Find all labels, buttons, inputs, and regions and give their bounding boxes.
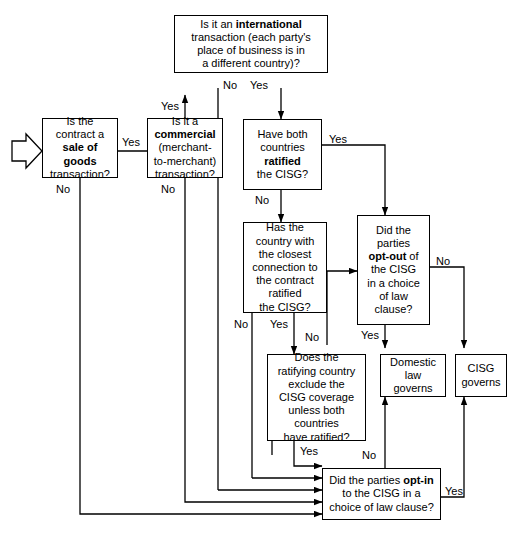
node-opt-out[interactable]: Did thepartiesopt-out ofthe CISGin a cho… (357, 215, 430, 325)
edge-label-closest-yes: Yes (270, 318, 288, 330)
node-both-ratified-label: Have bothcountriesratifiedthe CISG? (257, 128, 308, 181)
node-closest-connection[interactable]: Has thecountry withthe closestconnection… (243, 222, 327, 313)
node-international-label: Is it an internationaltransaction (each … (191, 18, 311, 71)
edge-label-opt-in-no: No (362, 449, 376, 461)
edge-closest-no-right (327, 271, 357, 345)
node-opt-in-label: Did the parties opt-into the CISG in ach… (329, 474, 434, 514)
edge-label-opt-out-no: No (436, 255, 450, 267)
edge-label-both-ratified-no: No (255, 194, 269, 206)
edge-label-international-yes: Yes (250, 79, 268, 91)
node-opt-out-label: Did thepartiesopt-out ofthe CISGin a cho… (367, 224, 420, 316)
edge-label-commercial-no: No (161, 183, 175, 195)
node-commercial-label: Is it acommercial(merchant-to-merchant)t… (154, 115, 216, 181)
edge-label-closest-no: No (234, 318, 248, 330)
node-cisg-governs-label: CISGgoverns (461, 362, 500, 388)
edge-opt-out-no (430, 267, 464, 348)
edge-label-both-ratified-yes: Yes (329, 133, 347, 145)
node-sale-of-goods-label: Is thecontract asale ofgoodstransaction? (50, 115, 110, 181)
edge-label-opt-out-yes: Yes (361, 329, 379, 341)
node-closest-connection-label: Has thecountry withthe closestconnection… (252, 221, 317, 313)
flowchart-canvas: Is thecontract asale ofgoodstransaction?… (0, 0, 514, 544)
node-exclude-coverage[interactable]: Does theratifying countryexclude theCISG… (267, 354, 366, 441)
edge-label-commercial-yes: Yes (161, 100, 179, 112)
node-domestic-law[interactable]: Domesticlawgoverns (380, 354, 446, 397)
node-domestic-law-label: Domesticlawgoverns (390, 356, 436, 396)
node-opt-in[interactable]: Did the parties opt-into the CISG in ach… (322, 468, 441, 520)
start-entry-arrow (12, 134, 42, 168)
edge-label-exclude-yes: Yes (300, 445, 318, 457)
edge-label-sale-yes: Yes (122, 136, 140, 148)
edge-label-international-no: No (223, 79, 237, 91)
node-both-ratified[interactable]: Have bothcountriesratifiedthe CISG? (243, 119, 322, 190)
edge-opt-in-yes (441, 397, 464, 497)
edge-label-opt-in-yes: Yes (445, 485, 463, 497)
edge-label-sale-no: No (56, 183, 70, 195)
node-cisg-governs[interactable]: CISGgoverns (455, 354, 507, 397)
edge-label-closest-no-right: No (305, 331, 319, 343)
node-sale-of-goods[interactable]: Is thecontract asale ofgoodstransaction? (42, 118, 118, 178)
node-commercial[interactable]: Is it acommercial(merchant-to-merchant)t… (147, 118, 223, 178)
node-international[interactable]: Is it an internationaltransaction (each … (174, 15, 328, 73)
node-exclude-coverage-label: Does theratifying countryexclude theCISG… (278, 351, 356, 443)
edge-both-ratified-yes (322, 145, 385, 215)
